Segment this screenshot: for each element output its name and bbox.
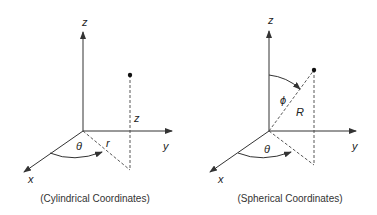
cylindrical-diagram: z y x θ r z (Cylindrical Coordinates)	[24, 16, 172, 204]
x-axis	[210, 131, 269, 172]
coordinate-systems-figure: z y x θ r z (Cylindrical Coordinates) z …	[0, 0, 377, 215]
projection-dashed-line	[269, 131, 314, 165]
cylindrical-caption: (Cylindrical Coordinates)	[40, 193, 149, 204]
y-axis-label: y	[162, 140, 170, 152]
theta-arc	[50, 152, 102, 158]
r-label: r	[106, 137, 111, 149]
y-axis-label: y	[351, 140, 359, 152]
z-axis-label: z	[81, 16, 88, 28]
radius-dashed-line	[269, 70, 314, 131]
z-height-label: z	[133, 112, 140, 124]
x-axis-label: x	[27, 173, 34, 185]
x-axis	[24, 131, 83, 172]
theta-label: θ	[76, 140, 82, 152]
z-axis-label: z	[267, 14, 274, 26]
phi-label: ϕ	[280, 94, 286, 106]
x-axis-label: x	[217, 173, 224, 185]
phi-arc	[269, 75, 300, 89]
spherical-diagram: z y x ϕ R θ (Spherical Coordinates)	[210, 14, 359, 204]
R-label: R	[296, 106, 304, 118]
spherical-caption: (Spherical Coordinates)	[237, 193, 342, 204]
point-marker	[128, 73, 132, 77]
theta-label: θ	[264, 143, 270, 155]
point-marker	[312, 68, 316, 72]
